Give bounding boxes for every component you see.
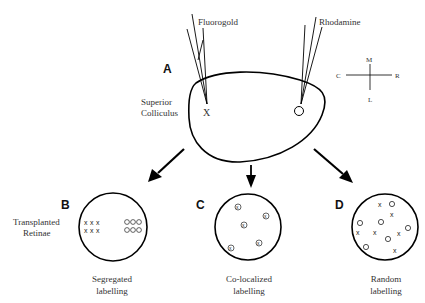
svg-text:x: x bbox=[356, 229, 360, 236]
transplanted-label-line1: Transplanted bbox=[13, 217, 60, 227]
random-circle-markers bbox=[357, 201, 410, 249]
superior-label-line2: Colliculus bbox=[141, 108, 178, 118]
caption-d-line2: labelling bbox=[370, 286, 402, 296]
panel-b-letter: B bbox=[61, 198, 70, 212]
retina-c-outline bbox=[215, 194, 281, 260]
fluorogold-pipette bbox=[187, 14, 207, 104]
svg-text:x: x bbox=[242, 222, 245, 228]
fluorogold-injection-marker: X bbox=[203, 107, 211, 118]
svg-text:x: x bbox=[229, 245, 232, 251]
svg-text:x: x bbox=[257, 240, 260, 246]
arrow-to-b bbox=[148, 149, 184, 182]
caption-b-line2: labelling bbox=[96, 286, 128, 296]
random-cross-markers: x x x x x x bbox=[356, 201, 401, 254]
orientation-rostral: R bbox=[395, 72, 400, 80]
orientation-caudal: C bbox=[336, 72, 341, 80]
svg-text:x: x bbox=[378, 201, 382, 208]
colocalized-markers: x x x x x bbox=[228, 204, 269, 251]
svg-text:x: x bbox=[393, 247, 397, 254]
caption-d-line1: Random bbox=[371, 274, 402, 284]
svg-text:x: x bbox=[90, 227, 94, 234]
svg-text:x: x bbox=[96, 219, 100, 226]
orientation-medial: M bbox=[366, 56, 373, 64]
svg-text:x: x bbox=[373, 229, 377, 236]
arrow-to-c bbox=[246, 165, 256, 188]
fluorogold-cluster: xxx xxx bbox=[84, 219, 100, 234]
caption-c-line1: Co-localized bbox=[226, 274, 272, 284]
transplanted-label-line2: Retinae bbox=[23, 228, 51, 238]
svg-text:x: x bbox=[96, 227, 100, 234]
svg-text:x: x bbox=[236, 204, 239, 210]
retinal-tracer-diagram: A Fluorogold X Rhodamine Superior Collic… bbox=[0, 0, 425, 303]
panel-d-letter: D bbox=[335, 198, 344, 212]
panel-a-letter: A bbox=[163, 62, 172, 76]
orientation-compass bbox=[346, 64, 392, 90]
fluorogold-label: Fluorogold bbox=[198, 17, 239, 27]
svg-text:x: x bbox=[84, 219, 88, 226]
arrow-to-d bbox=[314, 149, 353, 183]
caption-b-line1: Segregated bbox=[92, 274, 132, 284]
rhodamine-label: Rhodamine bbox=[319, 17, 361, 27]
svg-text:x: x bbox=[264, 213, 267, 219]
retina-d-outline bbox=[352, 194, 418, 260]
svg-text:x: x bbox=[90, 219, 94, 226]
panel-c-letter: C bbox=[196, 198, 205, 212]
svg-text:x: x bbox=[390, 211, 394, 218]
caption-c-line2: labelling bbox=[233, 286, 265, 296]
svg-text:x: x bbox=[397, 230, 401, 237]
rhodamine-cluster bbox=[125, 220, 142, 233]
orientation-lateral: L bbox=[368, 96, 372, 104]
svg-text:x: x bbox=[84, 227, 88, 234]
superior-label-line1: Superior bbox=[141, 97, 172, 107]
rhodamine-injection-marker bbox=[295, 107, 304, 116]
rhodamine-pipette bbox=[301, 17, 322, 104]
